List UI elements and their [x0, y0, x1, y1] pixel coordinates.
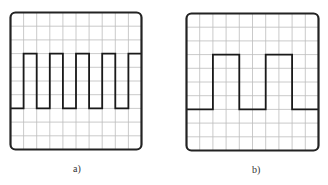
panel-label-b: b): [252, 164, 260, 175]
oscilloscope-screen-b: [185, 12, 320, 152]
scope-graphic: [9, 11, 143, 151]
grid-lines: [187, 14, 319, 151]
oscilloscope-screen-a: [9, 11, 143, 151]
scope-graphic: [185, 12, 320, 152]
panel-label-a: a): [73, 163, 81, 174]
